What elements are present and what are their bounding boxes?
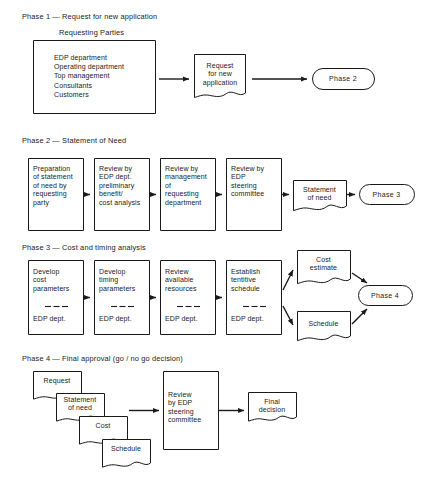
document-cost-estimate xyxy=(298,251,351,284)
document-statement-of-need xyxy=(294,181,347,211)
phase3-step-4-box xyxy=(227,261,282,335)
connector-p3-s4-schedule xyxy=(283,306,293,325)
connector-cost-estimate-phase4 xyxy=(352,273,367,283)
document-final-decision xyxy=(249,393,297,422)
connector-p3-s4-cost-estimate xyxy=(283,270,293,290)
requesting-parties-caption: Requesting Parties xyxy=(59,28,124,37)
phase-3-heading: Phase 3 — Cost and timing analysis xyxy=(22,243,146,252)
phase2-step-2-box xyxy=(95,159,150,231)
terminator-phase-3-label: Phase 3 xyxy=(359,191,414,198)
terminator-phase-4-label: Phase 4 xyxy=(358,292,412,299)
phase2-step-1-box xyxy=(29,159,84,231)
terminator-phase-2-label: Phase 2 xyxy=(312,75,374,82)
phase3-step-1-box xyxy=(29,261,84,335)
phase-4-heading: Phase 4 — Final approval (go / no go dec… xyxy=(22,354,183,363)
document-schedule xyxy=(298,312,351,341)
phase2-step-3-box xyxy=(161,159,216,231)
phase3-step-3-box xyxy=(161,261,216,335)
connector-schedule-phase4 xyxy=(352,309,367,324)
phase3-step-2-box xyxy=(95,261,150,335)
phase-2-heading: Phase 2 — Statement of Need xyxy=(22,136,126,145)
flowchart-diagram: Phase 1 — Request for new application Re… xyxy=(0,0,421,499)
phase4-review-box xyxy=(164,372,219,450)
document-request-new-application xyxy=(195,55,246,98)
requesting-parties-list: EDP department Operating department Top … xyxy=(54,53,154,99)
phase2-step-4-box xyxy=(227,159,282,231)
document-input-schedule xyxy=(103,440,151,468)
phase-1-heading: Phase 1 — Request for new application xyxy=(22,12,157,21)
